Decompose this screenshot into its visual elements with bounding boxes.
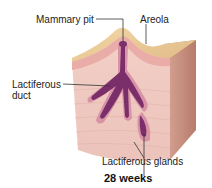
diagram-28-weeks: Mammary pit Areola Lactiferous duct Lact… (0, 0, 212, 188)
lactiferous-duct-label-line2: duct (12, 90, 31, 101)
lactiferous-glands-label: Lactiferous glands (102, 156, 183, 167)
areola-label: Areola (140, 14, 169, 25)
mammary-pit-label: Mammary pit (36, 14, 94, 25)
age-caption: 28 weeks (104, 172, 152, 184)
lactiferous-duct-label-line1: Lactiferous (12, 79, 61, 90)
